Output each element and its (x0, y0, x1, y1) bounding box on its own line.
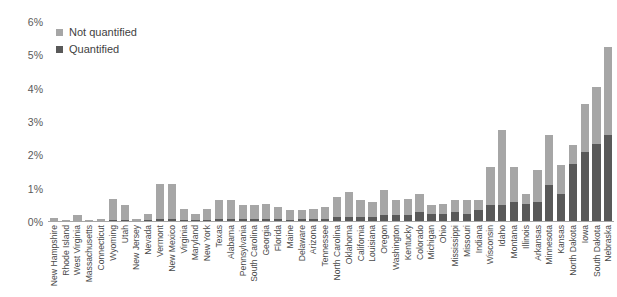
bar-stack[interactable] (368, 202, 376, 222)
bar-slot[interactable] (602, 22, 614, 222)
bar-stack[interactable] (356, 200, 364, 222)
bar-segment-not-quantified[interactable] (144, 214, 152, 221)
bar-segment-not-quantified[interactable] (356, 200, 364, 217)
bar-segment-not-quantified[interactable] (180, 209, 188, 221)
bar-slot[interactable] (367, 22, 379, 222)
bar-segment-not-quantified[interactable] (109, 199, 117, 221)
bar-stack[interactable] (427, 205, 435, 222)
bar-stack[interactable] (392, 200, 400, 222)
bar-stack[interactable] (321, 207, 329, 222)
bar-stack[interactable] (156, 184, 164, 222)
bar-slot[interactable] (355, 22, 367, 222)
bar-segment-not-quantified[interactable] (274, 207, 282, 219)
bar-stack[interactable] (557, 165, 565, 222)
bar-slot[interactable] (567, 22, 579, 222)
bar-slot[interactable] (225, 22, 237, 222)
bar-segment-not-quantified[interactable] (415, 194, 423, 212)
bar-segment-not-quantified[interactable] (239, 205, 247, 218)
bar-segment-not-quantified[interactable] (168, 184, 176, 219)
bar-segment-not-quantified[interactable] (557, 165, 565, 193)
bar-slot[interactable] (343, 22, 355, 222)
bar-segment-not-quantified[interactable] (451, 200, 459, 212)
bar-segment-quantified[interactable] (486, 205, 494, 222)
bar-slot[interactable] (154, 22, 166, 222)
bar-stack[interactable] (109, 199, 117, 222)
bar-stack[interactable] (486, 167, 494, 222)
bar-slot[interactable] (508, 22, 520, 222)
bar-segment-quantified[interactable] (569, 164, 577, 222)
bar-segment-not-quantified[interactable] (309, 209, 317, 219)
bar-stack[interactable] (239, 205, 247, 222)
bar-segment-not-quantified[interactable] (203, 209, 211, 221)
bar-slot[interactable] (201, 22, 213, 222)
bar-slot[interactable] (520, 22, 532, 222)
bar-slot[interactable] (237, 22, 249, 222)
bar-stack[interactable] (121, 205, 129, 222)
bar-segment-quantified[interactable] (592, 144, 600, 222)
bar-slot[interactable] (378, 22, 390, 222)
bar-slot[interactable] (142, 22, 154, 222)
bar-stack[interactable] (533, 170, 541, 222)
bar-slot[interactable] (190, 22, 202, 222)
bar-stack[interactable] (592, 87, 600, 222)
bar-segment-quantified[interactable] (533, 202, 541, 222)
bar-slot[interactable] (166, 22, 178, 222)
legend-item-not-quantified[interactable]: Not quantified (56, 26, 137, 39)
bar-slot[interactable] (532, 22, 544, 222)
bar-stack[interactable] (498, 130, 506, 222)
bar-segment-not-quantified[interactable] (368, 202, 376, 217)
bar-slot[interactable] (437, 22, 449, 222)
bar-stack[interactable] (274, 207, 282, 222)
bar-segment-quantified[interactable] (545, 185, 553, 222)
bar-stack[interactable] (463, 200, 471, 222)
bar-slot[interactable] (390, 22, 402, 222)
bar-segment-not-quantified[interactable] (156, 184, 164, 219)
bar-segment-not-quantified[interactable] (250, 205, 258, 218)
bar-segment-not-quantified[interactable] (392, 200, 400, 215)
bar-segment-not-quantified[interactable] (463, 200, 471, 213)
bar-slot[interactable] (308, 22, 320, 222)
bar-segment-not-quantified[interactable] (522, 194, 530, 204)
bar-segment-not-quantified[interactable] (227, 200, 235, 218)
bar-segment-not-quantified[interactable] (191, 214, 199, 221)
bar-stack[interactable] (227, 200, 235, 222)
bar-segment-not-quantified[interactable] (345, 192, 353, 217)
bar-slot[interactable] (402, 22, 414, 222)
bar-stack[interactable] (604, 47, 612, 222)
bar-segment-not-quantified[interactable] (321, 207, 329, 219)
bar-slot[interactable] (426, 22, 438, 222)
bar-segment-not-quantified[interactable] (533, 170, 541, 202)
bar-stack[interactable] (203, 209, 211, 222)
bar-slot[interactable] (319, 22, 331, 222)
bar-slot[interactable] (260, 22, 272, 222)
bar-stack[interactable] (522, 194, 530, 222)
bar-segment-quantified[interactable] (522, 204, 530, 222)
bar-slot[interactable] (449, 22, 461, 222)
bar-stack[interactable] (333, 197, 341, 222)
bar-segment-not-quantified[interactable] (581, 104, 589, 152)
bar-segment-quantified[interactable] (498, 205, 506, 222)
bar-stack[interactable] (180, 209, 188, 222)
bar-stack[interactable] (415, 194, 423, 222)
legend-item-quantified[interactable]: Quantified (56, 43, 137, 56)
bar-segment-not-quantified[interactable] (404, 199, 412, 216)
bar-segment-not-quantified[interactable] (439, 204, 447, 214)
bar-slot[interactable] (591, 22, 603, 222)
bar-stack[interactable] (474, 200, 482, 222)
bar-slot[interactable] (249, 22, 261, 222)
bar-segment-not-quantified[interactable] (298, 210, 306, 218)
bar-slot[interactable] (178, 22, 190, 222)
bar-stack[interactable] (569, 145, 577, 222)
bar-segment-quantified[interactable] (510, 202, 518, 222)
bar-stack[interactable] (215, 200, 223, 222)
bar-stack[interactable] (581, 104, 589, 222)
bar-stack[interactable] (451, 200, 459, 222)
bar-stack[interactable] (545, 135, 553, 222)
bar-segment-not-quantified[interactable] (510, 167, 518, 202)
bar-segment-not-quantified[interactable] (427, 205, 435, 213)
bar-segment-quantified[interactable] (604, 135, 612, 222)
bar-segment-not-quantified[interactable] (592, 87, 600, 144)
bar-slot[interactable] (461, 22, 473, 222)
bar-slot[interactable] (555, 22, 567, 222)
bar-slot[interactable] (284, 22, 296, 222)
